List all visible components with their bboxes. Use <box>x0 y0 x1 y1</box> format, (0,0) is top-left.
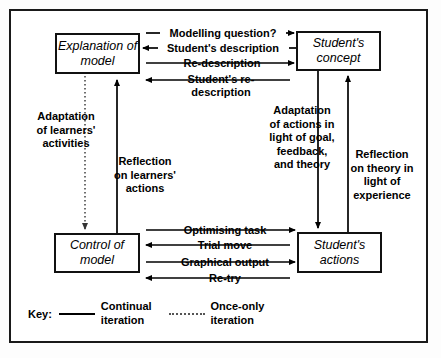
node-label-line: actions <box>320 253 360 267</box>
edge-label-line: description <box>191 86 250 98</box>
legend-label-line: Once-only <box>211 300 265 312</box>
block-label-line: Adaptation <box>273 104 330 116</box>
legend-solid-line-icon <box>59 313 95 315</box>
edge-label-reflection-on-theory: Reflection on theory in light of experie… <box>341 148 423 202</box>
block-label-line: Reflection <box>118 155 171 167</box>
legend-title: Key: <box>28 308 52 320</box>
legend-label-line: iteration <box>101 314 144 326</box>
edge-label-trial-move: Trial move <box>180 239 270 252</box>
node-label-line: model <box>80 54 114 68</box>
edge-label-adaptation-of-actions: Adaptation of actions in light of goal, … <box>259 104 345 172</box>
edge-label-reflection-on-learners-actions: Reflection on learners' actions <box>104 155 186 196</box>
legend-label-line: Continual <box>101 300 152 312</box>
legend-entry-continual-label: Continual iteration <box>101 300 152 327</box>
node-control-of-model[interactable]: Control of model <box>54 233 140 273</box>
block-label-line: of actions in <box>270 118 335 130</box>
edge-label-students-description: Student's description <box>157 42 289 55</box>
edge-label-re-description: Re-description <box>168 57 276 70</box>
node-students-concept[interactable]: Student's concept <box>296 31 381 71</box>
node-explanation-of-model[interactable]: Explanation of model <box>55 33 140 74</box>
block-label-line: Adaptation <box>37 110 94 122</box>
block-label-line: of learners' <box>37 124 96 136</box>
legend: Key: Continual iteration Once-only itera… <box>28 300 281 327</box>
block-label-line: activities <box>42 137 89 149</box>
node-label-line: Explanation of <box>58 39 137 53</box>
legend-dotted-line-icon <box>169 313 205 315</box>
edge-label-students-re-description: Student's re- description <box>168 73 274 99</box>
block-label-line: light of goal, <box>269 131 334 143</box>
edge-label-modelling-question: Modelling question? <box>163 27 283 40</box>
node-label-line: Student's <box>314 238 366 252</box>
legend-entry-continual: Continual iteration <box>59 300 152 327</box>
edge-label-graphical-output: Graphical output <box>170 256 280 269</box>
block-label-line: light of <box>364 175 401 187</box>
node-label-line: concept <box>317 51 361 65</box>
legend-entry-once-only: Once-only iteration <box>169 300 265 327</box>
block-label-line: and theory <box>274 158 330 170</box>
block-label-line: on learners' <box>114 169 176 181</box>
legend-entry-once-only-label: Once-only iteration <box>211 300 265 327</box>
node-students-concept-label: Student's concept <box>313 36 365 66</box>
edge-label-line: Student's re- <box>188 73 255 85</box>
block-label-line: feedback, <box>277 145 328 157</box>
node-explanation-of-model-label: Explanation of model <box>58 39 137 69</box>
node-label-line: Control of <box>70 238 124 252</box>
node-students-actions-label: Student's actions <box>314 238 366 268</box>
edge-label-adaptation-of-learners-activities: Adaptation of learners' activities <box>25 110 107 151</box>
node-control-of-model-label: Control of model <box>70 238 124 268</box>
block-label-line: actions <box>126 182 165 194</box>
edge-label-optimising-task: Optimising task <box>175 224 275 237</box>
block-label-line: Reflection <box>355 148 408 160</box>
legend-label-line: iteration <box>211 314 254 326</box>
block-label-line: on theory in <box>351 162 414 174</box>
edge-label-re-try: Re-try <box>190 272 260 285</box>
block-label-line: experience <box>353 189 410 201</box>
node-label-line: Student's <box>313 36 365 50</box>
node-label-line: model <box>80 253 114 267</box>
diagram-canvas: Explanation of model Student's concept C… <box>0 0 441 358</box>
node-students-actions[interactable]: Student's actions <box>297 232 382 273</box>
